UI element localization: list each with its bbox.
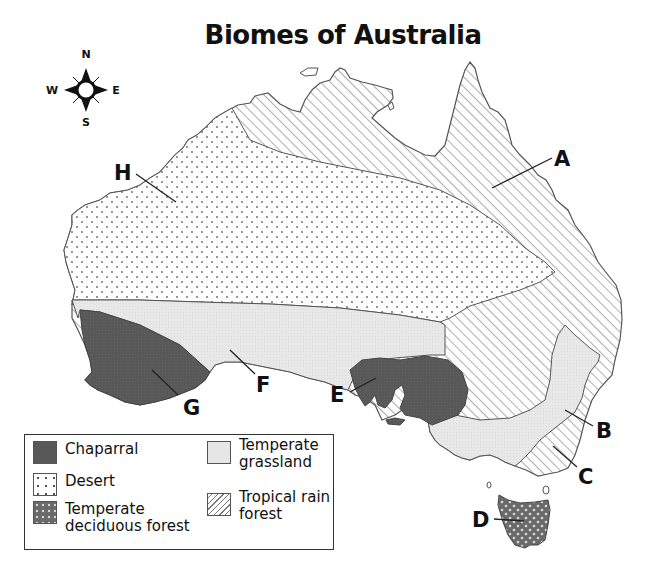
compass-south: S	[82, 116, 90, 129]
legend-label: Tropical rain	[239, 489, 330, 506]
legend-label: Temperate	[65, 501, 190, 518]
legend-label: Temperate	[239, 437, 319, 454]
svg-text:C: C	[578, 465, 593, 489]
compass-east: E	[112, 84, 120, 97]
map-legend: Chaparral Desert Temperate deciduous for…	[24, 434, 334, 550]
region-chaparral-island	[386, 418, 405, 425]
svg-text:G: G	[183, 396, 200, 420]
island-melville	[300, 68, 318, 76]
island-flinders	[543, 486, 549, 494]
compass-north: N	[81, 48, 90, 61]
svg-text:D: D	[472, 508, 489, 532]
desert-swatch	[33, 473, 57, 496]
legend-label-line2: deciduous forest	[65, 518, 190, 535]
legend-label: Desert	[65, 473, 115, 490]
legend-label-line2: grassland	[239, 454, 319, 471]
legend-item-tropical-rain-forest: Tropical rain forest	[207, 493, 330, 523]
svg-text:A: A	[554, 147, 571, 171]
island-king	[487, 482, 491, 488]
legend-item-chaparral: Chaparral	[33, 441, 138, 464]
legend-label-line2: forest	[239, 506, 330, 523]
temperate-deciduous-forest-swatch	[33, 501, 57, 524]
region-temperate-deciduous-forest	[498, 495, 550, 548]
legend-item-temperate-grassland: Temperate grassland	[207, 441, 319, 471]
svg-text:F: F	[256, 373, 270, 397]
compass-west: W	[46, 84, 58, 97]
legend-item-desert: Desert	[33, 473, 115, 496]
compass-rose-icon: N S W E	[46, 48, 120, 129]
chaparral-swatch	[33, 441, 57, 464]
legend-item-temperate-deciduous-forest: Temperate deciduous forest	[33, 501, 190, 535]
svg-text:H: H	[114, 161, 132, 185]
legend-label: Chaparral	[65, 441, 138, 458]
svg-text:B: B	[596, 419, 612, 443]
region-chaparral-e	[350, 356, 468, 425]
tropical-rain-forest-swatch	[207, 493, 231, 516]
svg-text:E: E	[330, 383, 344, 407]
temperate-grassland-swatch	[207, 441, 231, 464]
